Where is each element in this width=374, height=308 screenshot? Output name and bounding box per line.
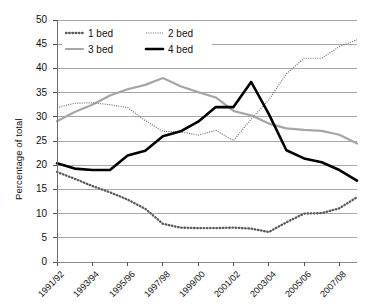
- y-tick-label: 15: [25, 184, 47, 194]
- legend-label: 1 bed: [88, 28, 113, 39]
- legend-label: 4 bed: [168, 44, 193, 55]
- chart-legend: 1 bed2 bed3 bed4 bed: [62, 24, 212, 56]
- y-tick-label: 40: [25, 63, 47, 73]
- y-tick-label: 20: [25, 160, 47, 170]
- y-tick-label: 30: [25, 112, 47, 122]
- series-line-3-bed: [57, 78, 357, 143]
- legend-label: 2 bed: [168, 28, 193, 39]
- y-axis-title: Percentage of total: [13, 118, 24, 200]
- y-tick-label: 50: [25, 15, 47, 25]
- y-tick-label: 0: [25, 257, 47, 267]
- y-tick-label: 5: [25, 233, 47, 243]
- y-tick-label: 45: [25, 39, 47, 49]
- y-tick-label: 10: [25, 209, 47, 219]
- plot-area: 1 bed2 bed3 bed4 bed: [0, 0, 374, 308]
- y-tick-label: 25: [25, 136, 47, 146]
- legend-label: 3 bed: [88, 44, 113, 55]
- series-line-1-bed: [57, 172, 357, 232]
- y-tick-label: 35: [25, 88, 47, 98]
- line-chart: Percentage of total 1 bed2 bed3 bed4 bed…: [0, 0, 374, 308]
- gridlines: [53, 20, 357, 262]
